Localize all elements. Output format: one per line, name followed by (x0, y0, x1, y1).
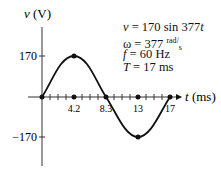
x-axis-label: t (ms) (185, 89, 216, 104)
x-tick-label-8-3: 8.3 (100, 103, 113, 114)
x-tick-label-4-2: 4.2 (68, 103, 81, 114)
x-tick-label-13: 13 (133, 103, 143, 114)
y-tick-label-170: 170 (19, 49, 37, 63)
x-axis-arrow-icon (176, 94, 182, 100)
y-tick-label-neg170: −170 (12, 130, 37, 144)
y-axis-label: v (V) (24, 6, 51, 21)
x-tick-label-17: 17 (165, 103, 175, 114)
equation-period: T = 17 ms (123, 61, 173, 74)
equation-voltage: v = 170 sin 377t (123, 21, 204, 34)
